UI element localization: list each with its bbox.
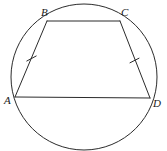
geometry-canvas: A B C D xyxy=(0,0,167,151)
vertex-label-a: A xyxy=(3,94,11,106)
vertex-label-c: C xyxy=(121,6,129,18)
segment-cd xyxy=(120,21,150,98)
vertex-label-b: B xyxy=(41,6,48,18)
vertex-label-d: D xyxy=(152,97,161,109)
circumscribed-circle xyxy=(11,4,157,150)
geometry-figure: A B C D xyxy=(0,0,167,151)
segment-ad xyxy=(15,97,150,98)
